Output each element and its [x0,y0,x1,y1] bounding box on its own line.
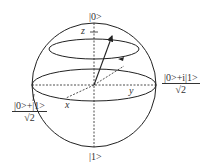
y-axis-label: y [129,86,133,96]
ket-zero-label: |0> [89,12,102,22]
x-state-numerator: |0>+|1> [12,100,47,112]
y-state-numerator: |0>+i|1> [162,72,200,84]
y-state-denominator: √2 [162,84,200,95]
ket-one-label: |1> [89,152,102,162]
z-axis-label: z [81,26,85,36]
x-axis [66,85,94,98]
x-axis-label: x [65,100,69,110]
x-state-denominator: √2 [12,112,47,123]
state-vector [94,36,112,85]
x-state-label: |0>+|1> √2 [12,100,47,123]
y-state-label: |0>+i|1> √2 [162,72,200,95]
